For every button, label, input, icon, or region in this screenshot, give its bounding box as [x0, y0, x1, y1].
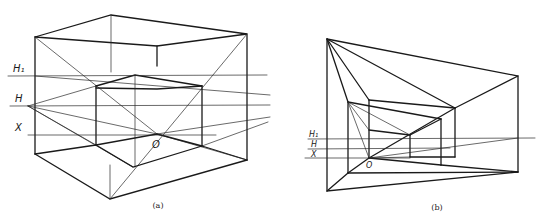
panel-b-caption: (b) [431, 203, 442, 212]
panel-a-horizon-lines [8, 75, 270, 135]
panel-b: H₁ H X O (b) [305, 39, 535, 212]
panel-b-h1-line [308, 138, 535, 139]
panel-b-label-x: X [310, 150, 317, 159]
panel-a-outer-box [35, 15, 247, 199]
panel-b-label-h1: H₁ [309, 130, 318, 139]
panel-a-inner-box [96, 75, 202, 167]
panel-a-h1-line [8, 75, 267, 76]
perspective-figure: H₁ H X O (a) [0, 0, 541, 222]
panel-a: H₁ H X O (a) [8, 15, 270, 210]
panel-b-inner-box [348, 100, 518, 173]
panel-a-label-x: X [14, 122, 23, 133]
panel-a-h-line [10, 105, 270, 106]
panel-b-horizon-lines [305, 138, 535, 158]
panel-a-label-o: O [152, 139, 160, 150]
panel-a-label-h1: H₁ [13, 63, 25, 74]
panel-a-label-h: H [15, 93, 23, 104]
panel-b-h-line [308, 148, 450, 149]
panel-a-diagonals [28, 34, 270, 199]
panel-a-caption: (a) [152, 201, 163, 210]
panel-b-label-o: O [366, 161, 372, 170]
panel-b-label-h: H [311, 140, 317, 149]
